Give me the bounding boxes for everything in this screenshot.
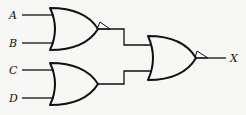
wire-gate2-to-gate3 <box>98 71 152 84</box>
input-label-d: D <box>8 92 18 105</box>
output-label-x: X <box>229 52 239 65</box>
gate-1-output-triangle-icon <box>97 22 110 29</box>
logic-circuit-diagram: A B C D X <box>0 0 246 115</box>
input-label-a: A <box>8 9 17 22</box>
input-label-b: B <box>8 37 17 50</box>
or-gate-3-icon <box>148 36 196 80</box>
or-gate-1-icon <box>50 8 98 50</box>
gate-3-output-triangle-icon <box>195 51 208 58</box>
or-gate-2-icon <box>50 63 98 105</box>
input-label-c: C <box>9 64 18 77</box>
wire-gate1-to-gate3 <box>98 29 152 45</box>
